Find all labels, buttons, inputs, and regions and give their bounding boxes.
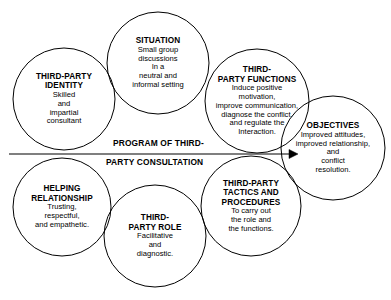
- program-label-line2: PARTY CONSULTATION: [104, 157, 205, 167]
- circle-third-party-identity: [13, 48, 115, 150]
- program-label-line1: PROGRAM OF THIRD-: [111, 138, 206, 148]
- circle-outlines-group: [13, 12, 385, 287]
- diagram-canvas: [0, 0, 391, 300]
- process-arrow-head: [289, 150, 298, 159]
- circle-third-party-role: [104, 185, 206, 287]
- circle-situation: [107, 12, 209, 114]
- circle-helping-relationship: [13, 158, 111, 256]
- third-party-consultation-diagram: THIRD-PARTY IDENTITY Skilled and imparti…: [0, 0, 391, 300]
- circle-third-party-functions: [205, 49, 309, 153]
